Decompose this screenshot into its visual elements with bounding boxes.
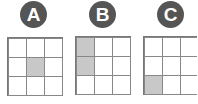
grid-cell — [8, 76, 27, 96]
grid-c — [143, 36, 197, 95]
badge-a: A — [20, 1, 47, 28]
grid-cell — [76, 37, 95, 57]
grid-cell — [112, 75, 131, 95]
grid-cell — [8, 38, 27, 58]
grid-cell — [180, 75, 198, 95]
grid-cell — [26, 38, 45, 58]
grid-cell — [44, 57, 63, 77]
grid-cell — [76, 75, 95, 95]
grid-cell — [162, 75, 181, 95]
grid-cell — [94, 37, 113, 57]
grid-cell — [144, 75, 163, 95]
grid-a — [7, 37, 63, 96]
grid-cell — [26, 76, 45, 96]
grid-cell — [112, 56, 131, 76]
grid-cell — [144, 56, 163, 76]
grid-cell — [26, 57, 45, 77]
grid-cell — [76, 56, 95, 76]
grid-b — [75, 36, 131, 95]
grid-cell — [94, 56, 113, 76]
grid-cell — [8, 57, 27, 77]
grid-cell — [162, 37, 181, 57]
grid-cell — [44, 76, 63, 96]
grid-cell — [162, 56, 181, 76]
badge-b: B — [89, 1, 116, 28]
grid-cell — [144, 37, 163, 57]
grid-cell — [44, 38, 63, 58]
grid-cell — [180, 37, 198, 57]
badge-c: C — [157, 1, 184, 28]
grid-cell — [94, 75, 113, 95]
grid-cell — [180, 56, 198, 76]
grid-cell — [112, 37, 131, 57]
